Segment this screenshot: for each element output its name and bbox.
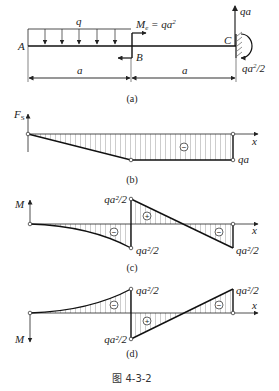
point-A-label: A xyxy=(17,40,25,52)
sign-negative-left: − xyxy=(112,228,117,237)
m-axis-label: M xyxy=(14,333,25,345)
shear-force-diagram: − FS x qa (b) xyxy=(13,108,258,186)
reaction-force-label: qa xyxy=(240,5,252,17)
sign-negative-left: − xyxy=(112,301,117,310)
x-axis-label: x xyxy=(251,135,257,147)
load-q-label: q xyxy=(76,15,82,27)
x-axis-label: x xyxy=(251,224,257,236)
value-C: qa²/2 xyxy=(236,244,259,256)
couple-moment-B: B Me = qa2 xyxy=(118,18,176,63)
sign-negative-right: − xyxy=(217,228,222,237)
distributed-load: q xyxy=(28,15,131,46)
bending-moment-diagram-c: − + − M x qa²/2 qa²/2 qa²/2 (c) xyxy=(14,193,259,274)
point-B-label: B xyxy=(136,51,143,63)
beam-diagram-figure: q A B Me = qa2 C qa qa2/2 xyxy=(0,0,279,391)
figure-caption: 图 4-3-2 xyxy=(112,373,151,384)
sublabel-d: (d) xyxy=(126,348,138,360)
point-C-label: C xyxy=(224,34,232,46)
sublabel-c: (c) xyxy=(126,262,137,274)
fixed-support-C: C qa qa2/2 xyxy=(224,5,266,74)
shear-value-qa: qa xyxy=(238,153,250,165)
x-axis-label: x xyxy=(251,299,257,311)
span-right-label: a xyxy=(182,64,188,76)
negative-sign: − xyxy=(182,143,187,152)
moment-Me-label: Me = qa2 xyxy=(135,18,176,32)
reaction-moment-label: qa2/2 xyxy=(242,62,266,74)
value-B-top: qa²/2 xyxy=(104,193,127,205)
span-left-label: a xyxy=(77,64,83,76)
sublabel-a: (a) xyxy=(126,93,137,105)
beam-loading-diagram: q A B Me = qa2 C qa qa2/2 xyxy=(17,5,266,105)
sublabel-b: (b) xyxy=(126,174,138,186)
value-B-bottom: qa²/2 xyxy=(136,244,159,256)
m-axis-label: M xyxy=(14,198,25,210)
sign-positive: + xyxy=(145,212,150,221)
value-B-top: qa²/2 xyxy=(136,284,159,296)
fs-axis-label: FS xyxy=(13,108,25,122)
sign-positive: + xyxy=(145,317,150,326)
value-C: qa²/2 xyxy=(236,284,259,296)
bending-moment-diagram-d: − + − M x qa²/2 qa²/2 qa²/2 (d) xyxy=(14,284,259,360)
value-B-bottom: qa²/2 xyxy=(104,333,127,345)
sign-negative-right: − xyxy=(217,301,222,310)
